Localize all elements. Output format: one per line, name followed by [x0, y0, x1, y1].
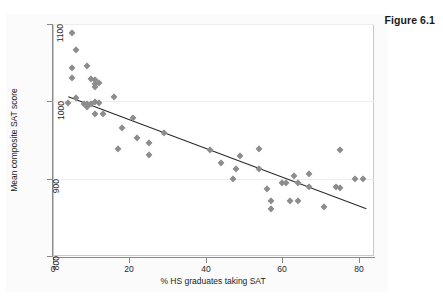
y-axis-title: Mean composite SAT score — [9, 88, 19, 192]
regression-line — [68, 97, 366, 209]
x-axis-title: % HS graduates taking SAT — [160, 276, 265, 286]
plot-graphics — [0, 0, 443, 300]
scatter-chart: 80090010001100020406080 Mean composite S… — [0, 0, 443, 300]
